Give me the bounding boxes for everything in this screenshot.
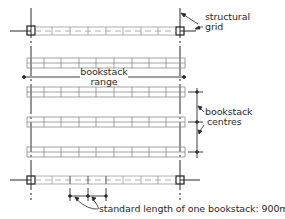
bookstack-row-4: [27, 147, 185, 157]
bookstack-range-label-line2: range: [74, 77, 134, 87]
bookstack-centres-dimension: [188, 88, 203, 158]
standard-length-label: standard length of one bookstack: 900mm: [99, 204, 285, 214]
standard-length-leader: [75, 197, 99, 209]
bookstack-layout-diagram: structural grid bookstack range bookstac…: [0, 0, 285, 219]
standard-length-dimension: [68, 188, 107, 201]
beam-top: [35, 27, 176, 35]
bookstack-centres-label-line2: centres: [207, 117, 242, 127]
bookstack-row-2: [27, 87, 185, 97]
bookstack-centres-leader-arrows: [198, 106, 204, 134]
beam-bottom: [35, 176, 176, 184]
structural-grid-label-line2: grid: [205, 22, 223, 32]
bookstack-row-3: [27, 117, 185, 127]
